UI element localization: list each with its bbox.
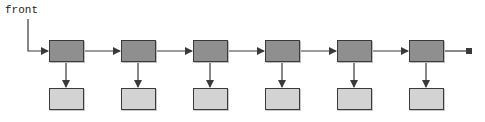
data-box-4 [265,88,300,110]
data-box-5 [337,88,372,110]
list-node-5 [337,40,372,62]
front-pointer-arrow [28,19,48,51]
data-box-1 [49,88,84,110]
list-node-3 [193,40,228,62]
data-box-2 [121,88,156,110]
list-node-2 [121,40,156,62]
list-node-1 [49,40,84,62]
data-box-6 [409,88,444,110]
null-terminator-icon [466,48,472,54]
list-node-6 [409,40,444,62]
data-box-3 [193,88,228,110]
list-node-4 [265,40,300,62]
